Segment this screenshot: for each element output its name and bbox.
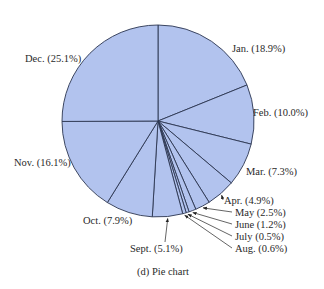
arrow-aug: [185, 215, 232, 248]
label-feb: Feb. (10.0%): [253, 107, 309, 119]
label-jan: Jan. (18.9%): [232, 43, 286, 55]
label-may: May (2.5%): [235, 207, 286, 219]
pie-slice-dec: [62, 25, 158, 121]
label-nov: Nov. (16.1%): [14, 157, 71, 169]
label-oct: Oct. (7.9%): [83, 215, 133, 227]
label-july: July (0.5%): [235, 231, 284, 243]
arrow-june: [193, 213, 232, 224]
label-mar: Mar. (7.3%): [246, 166, 298, 178]
label-apr: Apr. (4.9%): [224, 195, 274, 207]
arrow-apr: [222, 195, 223, 200]
label-aug: Aug. (0.6%): [235, 243, 288, 255]
label-june: June (1.2%): [235, 219, 286, 231]
chart-caption: (d) Pie chart: [137, 266, 189, 278]
pie-chart: Jan. (18.9%) Feb. (10.0%) Mar. (7.3%) Ap…: [0, 0, 324, 289]
label-sept: Sept. (5.1%): [130, 243, 183, 255]
pie-slices: [62, 25, 254, 217]
arrow-may: [203, 208, 232, 212]
label-dec: Dec. (25.1%): [25, 53, 82, 65]
arrow-sept: [165, 219, 168, 242]
